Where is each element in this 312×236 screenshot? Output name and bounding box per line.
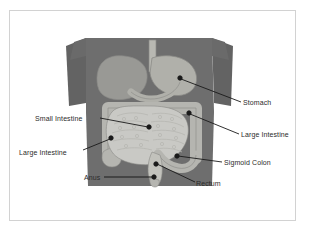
liver-shape (97, 56, 147, 100)
leader-dot-stomach (178, 76, 182, 80)
leader-dot-rectum (154, 162, 158, 166)
label-large-intestine-left: Large Intestine (19, 148, 67, 157)
diagram-page: Stomach Large Intestine Small Intestine … (0, 0, 312, 236)
leader-dot-anus (152, 175, 156, 179)
leader-dot-large-right (187, 111, 191, 115)
label-small-intestine: Small Intestine (35, 114, 82, 123)
label-sigmoid-colon: Sigmoid Colon (224, 158, 271, 167)
label-large-intestine-right: Large Intestine (241, 130, 289, 139)
leader-dot-small-left (147, 125, 151, 129)
label-anus: Anus (84, 173, 100, 182)
leader-dot-large-left (109, 136, 113, 140)
leader-dot-sigmoid (175, 154, 179, 158)
label-stomach: Stomach (243, 98, 271, 107)
label-rectum: Rectum (196, 179, 221, 188)
